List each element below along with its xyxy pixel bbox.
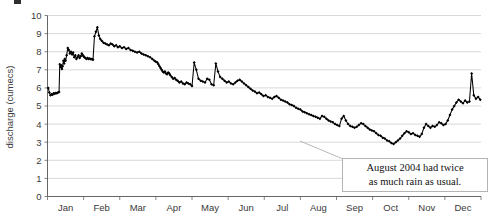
callout-line-1: August 2004 had twice — [366, 161, 463, 175]
data-point — [65, 54, 68, 57]
x-tickmarks-group — [48, 197, 482, 201]
y-tick-labels-group: 012345678910 — [31, 10, 42, 202]
y-tick-label-9: 9 — [36, 28, 41, 39]
data-point — [94, 30, 97, 33]
x-tick-label-feb: Feb — [94, 202, 110, 213]
data-point — [97, 34, 100, 37]
august-2004-callout: August 2004 had twice as much rain as us… — [342, 158, 488, 192]
x-tick-label-dec: Dec — [454, 202, 471, 213]
y-tick-label-1: 1 — [36, 173, 41, 184]
data-point — [93, 35, 96, 38]
y-tick-label-5: 5 — [36, 100, 41, 111]
y-tick-label-3: 3 — [36, 137, 41, 148]
discharge-series-markers — [47, 26, 482, 146]
data-point — [217, 70, 220, 73]
data-point — [470, 72, 473, 75]
y-tick-label-10: 10 — [31, 10, 42, 21]
y-axis-title: discharge (cumecs) — [4, 66, 15, 149]
x-tick-label-may: May — [201, 202, 219, 213]
data-point — [195, 68, 198, 71]
x-tick-label-jun: Jun — [239, 202, 254, 213]
x-tick-label-jan: Jan — [58, 202, 73, 213]
data-point — [48, 91, 51, 94]
x-tick-label-jul: Jul — [276, 202, 288, 213]
y-tick-label-8: 8 — [36, 46, 41, 57]
data-point — [448, 114, 451, 117]
data-point — [96, 26, 99, 29]
x-tick-label-oct: Oct — [383, 202, 398, 213]
x-tick-label-sep: Sep — [346, 202, 363, 213]
y-tick-label-0: 0 — [36, 191, 41, 202]
callout-line-2: as much rain as usual. — [369, 175, 461, 189]
gridlines-group — [48, 16, 482, 179]
x-tick-label-nov: Nov — [418, 202, 435, 213]
data-point — [193, 61, 196, 64]
y-tick-label-4: 4 — [36, 119, 41, 130]
x-tick-label-aug: Aug — [310, 202, 327, 213]
y-tick-label-2: 2 — [36, 155, 41, 166]
chart-container: 012345678910 JanFebMarAprMayJunJulAugSep… — [0, 0, 492, 224]
x-tick-label-mar: Mar — [130, 202, 146, 213]
x-tick-labels-group: JanFebMarAprMayJunJulAugSepOctNovDec — [58, 202, 472, 213]
x-tick-label-apr: Apr — [167, 202, 182, 213]
y-tick-label-6: 6 — [36, 82, 41, 93]
y-tick-label-7: 7 — [36, 64, 41, 75]
data-point — [214, 62, 217, 65]
top-edge-artifact — [14, 0, 21, 4]
